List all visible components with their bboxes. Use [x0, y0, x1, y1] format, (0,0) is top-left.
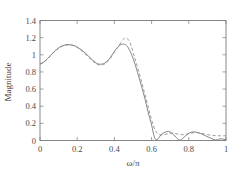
plot-area: 00.20.40.60.811.21.4 00.20.40.60.81 ω/π …: [3, 16, 228, 169]
x-tick-label: 0.8: [183, 144, 194, 154]
y-tick-label: 0.2: [25, 118, 36, 128]
y-tick-label: 0.8: [25, 67, 36, 77]
x-tick-label: 0.6: [146, 144, 157, 154]
y-tick-labels: 00.20.40.60.811.21.4: [25, 16, 36, 146]
figure-container: 00.20.40.60.811.21.4 00.20.40.60.81 ω/π …: [0, 0, 242, 172]
y-tick-label: 1.2: [25, 33, 36, 43]
y-tick-label: 1: [32, 50, 36, 60]
x-tick-label: 0: [38, 144, 42, 154]
magnitude-response-chart: 00.20.40.60.811.21.4 00.20.40.60.81 ω/π …: [0, 0, 242, 172]
x-tick-label: 1: [224, 144, 228, 154]
x-tick-labels: 00.20.40.60.81: [38, 144, 228, 154]
y-tick-label: 0.6: [25, 84, 36, 94]
plot-background: [40, 21, 226, 141]
y-axis-label: Magnitude: [3, 63, 13, 102]
x-tick-label: 0.2: [72, 144, 83, 154]
x-tick-label: 0.4: [109, 144, 120, 154]
y-tick-label: 1.4: [25, 16, 36, 26]
y-tick-label: 0: [32, 136, 36, 146]
x-axis-label: ω/π: [127, 158, 140, 168]
y-tick-label: 0.4: [25, 101, 36, 111]
